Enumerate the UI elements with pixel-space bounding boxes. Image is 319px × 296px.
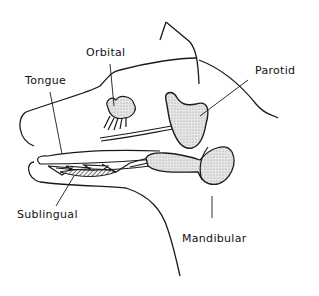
parotid-duct <box>100 126 173 141</box>
mandibular-gland <box>146 147 234 185</box>
label-tongue: Tongue <box>25 74 66 87</box>
orbital-gland <box>107 97 135 119</box>
mandibular-duct <box>130 158 148 167</box>
label-parotid: Parotid <box>255 64 295 77</box>
leader-parotid <box>200 80 248 116</box>
ear-outline <box>160 22 199 84</box>
leader-sublingual <box>56 176 74 206</box>
tongue-shape <box>38 151 160 164</box>
parotid-gland <box>166 93 208 149</box>
salivary-glands-diagram <box>0 0 319 296</box>
label-sublingual: Sublingual <box>17 208 78 221</box>
label-mandibular: Mandibular <box>182 232 247 245</box>
label-orbital: Orbital <box>86 46 125 59</box>
